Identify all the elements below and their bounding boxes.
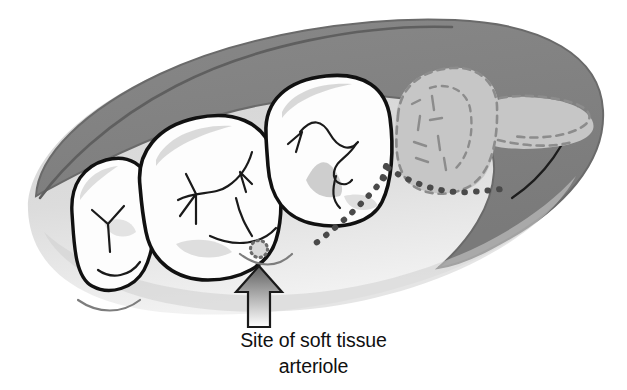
tooth-second-molar bbox=[266, 75, 392, 226]
caption-line-2: arteriole bbox=[0, 355, 627, 378]
soft-tissue-arteriole-site bbox=[251, 241, 268, 258]
dental-illustration-figure: Site of soft tissue arteriole bbox=[0, 0, 627, 390]
caption-line-1: Site of soft tissue bbox=[0, 329, 627, 352]
arteriole-ring bbox=[251, 241, 268, 258]
